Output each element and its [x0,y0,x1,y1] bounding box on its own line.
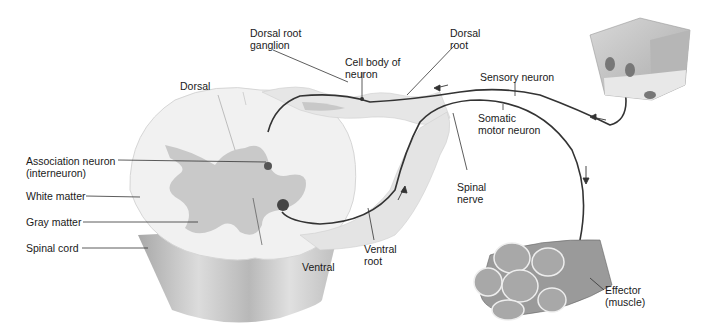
label-dorsal: Dorsal [180,80,210,92]
skin-receptor-block [590,18,690,100]
reflex-arc-diagram: Dorsal root ganglion Cell body of neuron… [0,0,714,330]
arrow-down-motor-icon [583,166,589,184]
label-dorsal-root-ganglion: Dorsal root ganglion [250,27,301,51]
label-association-neuron: Association neuron (interneuron) [26,155,115,179]
motor-neuron-cell-body [277,199,289,211]
label-spinal-nerve: Spinal nerve [457,181,486,205]
label-gray-matter: Gray matter [26,216,81,228]
label-ventral-root: Ventral root [364,243,397,267]
label-cell-body-of-neuron: Cell body of neuron [345,56,400,80]
label-white-matter: White matter [26,190,86,202]
interneuron-cell-body [264,162,272,170]
label-ventral: Ventral [302,261,335,273]
label-somatic-motor-neuron: Somatic motor neuron [478,112,540,136]
muscle-effector [474,240,612,320]
label-effector-muscle: Effector (muscle) [605,284,645,308]
arrow-left-dorsal-root-icon [434,85,448,91]
label-dorsal-root: Dorsal root [450,27,480,51]
label-sensory-neuron: Sensory neuron [480,71,554,83]
label-spinal-cord: Spinal cord [26,242,79,254]
